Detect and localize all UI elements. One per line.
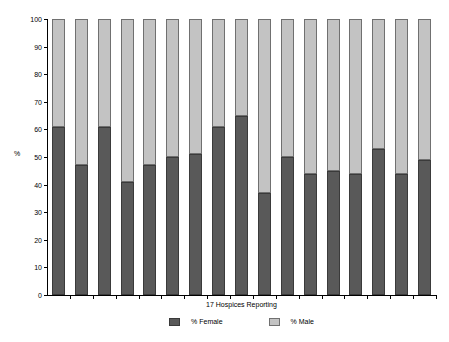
bar-segment-female[interactable] — [372, 149, 385, 295]
bar-segment-male[interactable] — [121, 19, 134, 182]
x-axis-tick — [70, 295, 71, 299]
y-axis-tick — [44, 212, 48, 213]
y-axis-tick-label: 70 — [34, 98, 42, 105]
bar-stack[interactable] — [258, 19, 271, 295]
bar-segment-female[interactable] — [349, 174, 362, 295]
bar-segment-female[interactable] — [98, 127, 111, 295]
bar-segment-female[interactable] — [212, 127, 225, 295]
bar-segment-male[interactable] — [327, 19, 340, 171]
bar-segment-male[interactable] — [166, 19, 179, 157]
y-axis-tick — [44, 74, 48, 75]
legend-swatch-icon — [269, 318, 280, 326]
y-axis-tick — [44, 267, 48, 268]
bar-stack[interactable] — [121, 19, 134, 295]
bar-segment-male[interactable] — [349, 19, 362, 174]
x-axis-tick — [390, 295, 391, 299]
bar-segment-female[interactable] — [166, 157, 179, 295]
y-axis-tick-label: 0 — [38, 292, 42, 299]
y-axis-tick-label: 20 — [34, 236, 42, 243]
bar-stack[interactable] — [166, 19, 179, 295]
bar-segment-male[interactable] — [258, 19, 271, 193]
y-axis-tick-label: 10 — [34, 264, 42, 271]
x-axis-tick — [413, 295, 414, 299]
bar-segment-female[interactable] — [121, 182, 134, 295]
bar-segment-male[interactable] — [418, 19, 431, 160]
y-axis-tick-label: 50 — [34, 154, 42, 161]
y-axis-tick — [44, 129, 48, 130]
y-axis-tick-label: 30 — [34, 209, 42, 216]
bar-stack[interactable] — [212, 19, 225, 295]
bar-segment-female[interactable] — [258, 193, 271, 295]
x-axis-tick — [276, 295, 277, 299]
chart-legend: % Female% Male — [47, 318, 436, 326]
bar-stack[interactable] — [349, 19, 362, 295]
bar-segment-male[interactable] — [235, 19, 248, 116]
bar-segment-female[interactable] — [52, 127, 65, 295]
bar-stack[interactable] — [143, 19, 156, 295]
bar-segment-female[interactable] — [143, 165, 156, 295]
bar-stack[interactable] — [395, 19, 408, 295]
x-axis-tick — [116, 295, 117, 299]
bar-segment-female[interactable] — [418, 160, 431, 295]
x-axis-line — [47, 295, 436, 296]
bar-segment-female[interactable] — [235, 116, 248, 295]
bar-segment-male[interactable] — [372, 19, 385, 149]
y-axis-tick — [44, 157, 48, 158]
bar-segment-male[interactable] — [395, 19, 408, 174]
bar-segment-male[interactable] — [52, 19, 65, 127]
bar-stack[interactable] — [235, 19, 248, 295]
x-axis-tick — [436, 295, 437, 299]
x-axis-title: 17 Hospices Reporting — [47, 300, 436, 309]
y-axis-tick — [44, 47, 48, 48]
bar-stack[interactable] — [418, 19, 431, 295]
bar-segment-female[interactable] — [395, 174, 408, 295]
bar-stack[interactable] — [98, 19, 111, 295]
bar-segment-female[interactable] — [189, 154, 202, 295]
y-axis-tick — [44, 102, 48, 103]
bar-segment-female[interactable] — [304, 174, 317, 295]
y-axis-tick-label: 80 — [34, 71, 42, 78]
x-axis-tick — [161, 295, 162, 299]
y-axis-title: % — [8, 150, 26, 158]
bar-stack[interactable] — [75, 19, 88, 295]
plot-area: 0102030405060708090100 — [47, 19, 436, 295]
bar-segment-male[interactable] — [75, 19, 88, 165]
stacked-bar-chart: % 0102030405060708090100 17 Hospices Rep… — [0, 0, 449, 342]
y-axis-tick-label: 40 — [34, 181, 42, 188]
legend-item-label: % Male — [291, 318, 314, 326]
bar-segment-male[interactable] — [189, 19, 202, 154]
y-axis-tick-label: 100 — [30, 16, 42, 23]
bar-stack[interactable] — [372, 19, 385, 295]
bar-stack[interactable] — [327, 19, 340, 295]
x-axis-tick — [322, 295, 323, 299]
bar-segment-male[interactable] — [212, 19, 225, 127]
bar-stack[interactable] — [189, 19, 202, 295]
bar-segment-female[interactable] — [75, 165, 88, 295]
x-axis-tick — [367, 295, 368, 299]
x-axis-tick — [344, 295, 345, 299]
bar-segment-male[interactable] — [304, 19, 317, 174]
bar-stack[interactable] — [281, 19, 294, 295]
x-axis-tick — [139, 295, 140, 299]
bar-stack[interactable] — [52, 19, 65, 295]
legend-item-female[interactable]: % Female — [169, 318, 223, 326]
bar-stack[interactable] — [304, 19, 317, 295]
x-axis-tick — [93, 295, 94, 299]
y-axis-tick-label: 90 — [34, 43, 42, 50]
y-axis-tick — [44, 240, 48, 241]
y-axis-tick — [44, 19, 48, 20]
y-axis-tick — [44, 295, 48, 296]
legend-item-male[interactable]: % Male — [269, 318, 314, 326]
y-axis-tick-label: 60 — [34, 126, 42, 133]
bar-segment-male[interactable] — [98, 19, 111, 127]
bar-segment-female[interactable] — [281, 157, 294, 295]
x-axis-tick — [253, 295, 254, 299]
legend-item-label: % Female — [191, 318, 223, 326]
x-axis-tick — [299, 295, 300, 299]
bar-segment-male[interactable] — [281, 19, 294, 157]
x-axis-tick — [230, 295, 231, 299]
y-axis-tick — [44, 185, 48, 186]
bar-segment-male[interactable] — [143, 19, 156, 165]
bar-segment-female[interactable] — [327, 171, 340, 295]
legend-swatch-icon — [169, 318, 180, 326]
